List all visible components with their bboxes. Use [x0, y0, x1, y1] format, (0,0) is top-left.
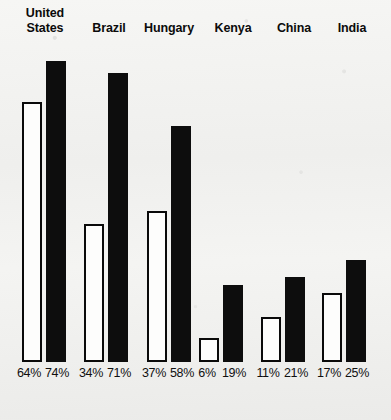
bar-kenya-dark — [223, 285, 243, 362]
group-label-india: India — [323, 21, 381, 36]
value-label-hungary-light: 37% — [140, 366, 168, 380]
bar-hungary-dark — [171, 126, 191, 362]
value-label-kenya-dark: 19% — [220, 366, 248, 380]
bar-hungary-light — [147, 211, 167, 362]
bar-china-dark — [285, 277, 305, 362]
group-label-hungary: Hungary — [133, 21, 205, 36]
value-label-brazil-dark: 71% — [105, 366, 133, 380]
value-label-kenya-light: 6% — [193, 366, 221, 380]
bar-india-light — [322, 293, 342, 362]
bar-chart: United States Brazil Hungary Kenya China… — [0, 0, 391, 420]
bar-india-dark — [346, 260, 366, 362]
plot-area — [0, 55, 391, 362]
group-label-united-states: United States — [8, 6, 82, 35]
group-label-kenya: Kenya — [202, 21, 264, 36]
group-label-brazil: Brazil — [78, 21, 140, 36]
value-label-india-light: 17% — [315, 366, 343, 380]
value-label-china-light: 11% — [254, 366, 282, 380]
value-label-china-dark: 21% — [282, 366, 310, 380]
bar-united-states-dark — [46, 61, 66, 362]
value-label-india-dark: 25% — [343, 366, 371, 380]
bar-kenya-light — [199, 338, 219, 362]
bar-united-states-light — [22, 102, 42, 362]
value-label-brazil-light: 34% — [77, 366, 105, 380]
value-label-united-states-dark: 74% — [43, 366, 71, 380]
bar-brazil-dark — [108, 73, 128, 362]
bar-china-light — [261, 317, 281, 362]
value-label-united-states-light: 64% — [15, 366, 43, 380]
bar-brazil-light — [84, 224, 104, 362]
value-label-hungary-dark: 58% — [168, 366, 196, 380]
group-label-china: China — [263, 21, 325, 36]
